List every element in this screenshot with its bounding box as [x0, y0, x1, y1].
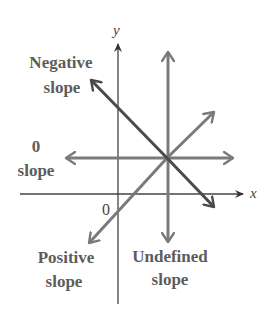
negative-slope-label-line2: slope: [44, 78, 81, 97]
positive-slope-line: [167, 112, 214, 158]
zero-slope-label-line1: 0: [32, 137, 41, 156]
positive-slope-line-down: [89, 158, 167, 243]
undefined-slope-label-line1: Undefined: [132, 247, 208, 266]
origin-label: 0: [102, 201, 110, 218]
negative-slope-line-down: [167, 158, 214, 207]
negative-slope-label-line1: Negative: [29, 53, 93, 72]
positive-slope-label-line2: slope: [46, 272, 83, 291]
positive-slope-label-line1: Positive: [38, 248, 95, 267]
x-axis-label: x: [249, 185, 257, 201]
undefined-slope-label-line2: slope: [152, 270, 189, 289]
y-axis-label: y: [111, 22, 120, 38]
negative-slope-line: [91, 80, 167, 158]
zero-slope-label-line2: slope: [18, 161, 55, 180]
slope-diagram: y x 0 Negative slope 0 slope Positive sl…: [0, 0, 273, 321]
